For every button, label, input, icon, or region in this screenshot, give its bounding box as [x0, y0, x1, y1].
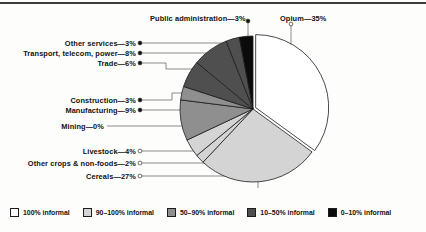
leader-marker-other-services: [138, 41, 142, 45]
leader-marker-manufacturing: [138, 108, 142, 112]
slice-label-other-crops: Other crops & non-foods—2%: [0, 159, 136, 168]
leader-marker-livestock: [138, 149, 142, 153]
pie-chart-area: Public administration—3% Opium—35% Other…: [0, 6, 426, 192]
legend-item[interactable]: 10–50% informal: [247, 208, 314, 217]
slice-label-trade: Trade—6%: [0, 59, 136, 68]
leader-marker-transport: [138, 51, 142, 55]
legend-label: 50–90% informal: [180, 209, 234, 216]
legend-swatch: [10, 208, 19, 217]
slice-label-livestock: Livestock—4%: [0, 147, 136, 156]
slice-label-public-administration: Public administration—3%: [150, 14, 246, 23]
legend-swatch: [83, 208, 92, 217]
slice-label-manufacturing: Manufacturing—9%: [0, 106, 136, 115]
pie-slices[interactable]: [180, 35, 329, 182]
slice-label-cereals: Cereals—27%: [0, 172, 136, 181]
leader-marker-other-crops: [138, 161, 142, 165]
legend-label: 90–100% informal: [96, 209, 154, 216]
legend-label: 10–50% informal: [260, 209, 314, 216]
slice-label-other-services: Other services—3%: [0, 39, 136, 48]
slice-label-construction: Construction—3%: [0, 96, 136, 105]
leader-marker-construction: [138, 98, 142, 102]
legend-swatch: [247, 208, 256, 217]
slice-label-opium: Opium—35%: [280, 14, 327, 23]
slice-label-transport: Transport, telecom, power—8%: [0, 49, 136, 58]
legend-swatch: [167, 208, 176, 217]
figure-frame: Public administration—3% Opium—35% Other…: [0, 0, 426, 232]
top-rule: [0, 2, 426, 4]
legend-item[interactable]: 0–10% informal: [328, 208, 392, 217]
legend-item[interactable]: 100% informal: [10, 208, 70, 217]
legend-item[interactable]: 90–100% informal: [83, 208, 154, 217]
leader-marker-cereals: [138, 174, 142, 178]
slice-label-mining: Mining—0%: [0, 122, 104, 131]
leader-construction: [140, 93, 186, 100]
leader-marker-trade: [138, 61, 142, 65]
leader-marker-public-administration: [246, 19, 250, 23]
legend-label: 0–10% informal: [341, 209, 392, 216]
legend-item[interactable]: 50–90% informal: [167, 208, 234, 217]
chart-legend: 100% informal90–100% informal50–90% info…: [0, 200, 426, 224]
legend-label: 100% informal: [23, 209, 70, 216]
legend-swatch: [328, 208, 337, 217]
